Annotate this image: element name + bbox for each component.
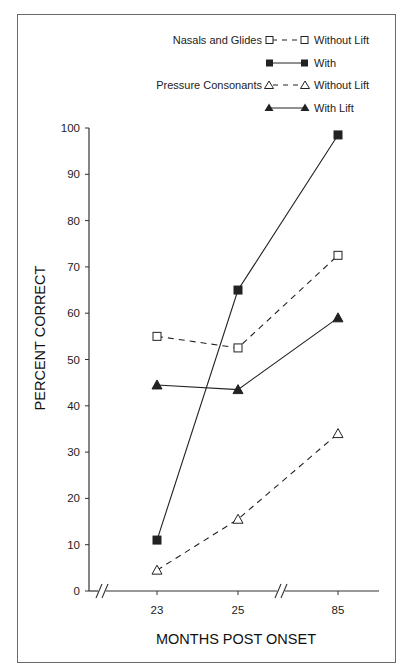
y-tick-label: 10: [67, 539, 80, 551]
y-tick-label: 90: [67, 168, 80, 180]
legend-marker-filled-square-solid: [266, 60, 308, 67]
x-axis: 232585: [89, 584, 379, 616]
legend-label-with-lift: With Lift: [314, 102, 354, 114]
y-tick-label: 0: [74, 585, 80, 597]
data-point: [153, 332, 161, 340]
x-axis-title: MONTHS POST ONSET: [156, 631, 316, 647]
y-tick-label: 100: [61, 122, 80, 134]
legend-group-nasals-glides: Nasals and Glides: [173, 34, 263, 46]
legend-label-without-lift-2: Without Lift: [314, 79, 369, 91]
data-point: [333, 429, 343, 438]
y-tick-label: 80: [67, 215, 80, 227]
x-tick-label: 25: [232, 604, 245, 616]
data-point: [152, 565, 162, 574]
y-tick-label: 20: [67, 492, 80, 504]
data-point: [333, 313, 343, 322]
series-open-square: [153, 251, 342, 352]
legend: Nasals and Glides Pressure Consonants Wi…: [156, 34, 369, 114]
legend-label-with: With: [314, 57, 336, 69]
legend-marker-filled-triangle-solid: [265, 104, 310, 112]
y-axis: 0102030405060708090100: [61, 122, 89, 597]
series-filled-square: [153, 131, 342, 544]
y-tick-label: 30: [67, 446, 80, 458]
x-tick-label: 85: [332, 604, 345, 616]
legend-marker-open-square-dashed: [266, 37, 308, 44]
legend-group-pressure-consonants: Pressure Consonants: [156, 79, 262, 91]
data-point: [234, 286, 242, 294]
x-tick-label: 23: [151, 604, 164, 616]
data-series: [152, 131, 343, 574]
y-axis-title: PERCENT CORRECT: [32, 265, 48, 410]
data-point: [334, 131, 342, 139]
data-point: [234, 344, 242, 352]
y-tick-label: 50: [67, 354, 80, 366]
data-point: [334, 251, 342, 259]
legend-marker-open-triangle-dashed: [265, 81, 310, 89]
data-point: [152, 380, 162, 389]
series-open-triangle: [152, 429, 343, 575]
legend-label-without-lift-1: Without Lift: [314, 34, 369, 46]
y-tick-label: 70: [67, 261, 80, 273]
series-filled-triangle: [152, 313, 343, 394]
data-point: [153, 536, 161, 544]
line-chart: Nasals and Glides Pressure Consonants Wi…: [0, 0, 414, 669]
y-tick-label: 60: [67, 307, 80, 319]
y-tick-label: 40: [67, 400, 80, 412]
